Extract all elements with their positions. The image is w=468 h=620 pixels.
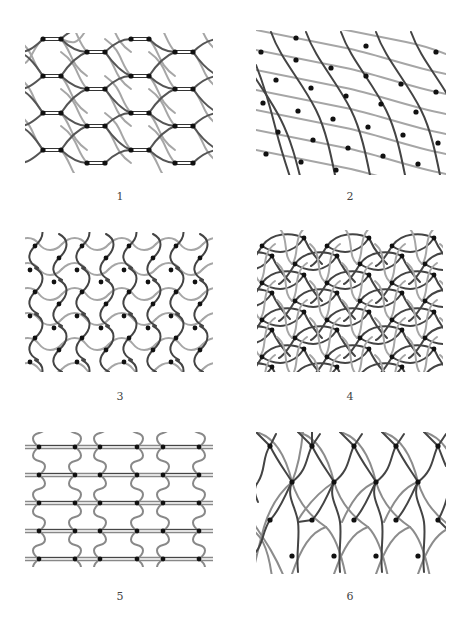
pattern-panel-6 <box>256 432 446 574</box>
panel-label-1: 1 <box>100 190 140 203</box>
pattern-panel-5 <box>25 432 213 567</box>
lattice-diagram-5 <box>25 432 213 567</box>
lattice-diagram-6 <box>256 432 446 574</box>
panel-label-3: 3 <box>100 390 140 403</box>
pattern-panel-1 <box>25 33 213 173</box>
panel-label-5: 5 <box>100 590 140 603</box>
lattice-diagram-2 <box>256 30 446 175</box>
panel-label-2: 2 <box>330 190 370 203</box>
lattice-diagram-1 <box>25 33 213 173</box>
pattern-panel-4 <box>257 230 443 372</box>
pattern-panel-3 <box>25 232 213 372</box>
lattice-diagram-3 <box>25 232 213 372</box>
panel-label-4: 4 <box>330 390 370 403</box>
pattern-panel-2 <box>256 30 446 175</box>
lattice-diagram-4 <box>257 230 443 372</box>
panel-label-6: 6 <box>330 590 370 603</box>
